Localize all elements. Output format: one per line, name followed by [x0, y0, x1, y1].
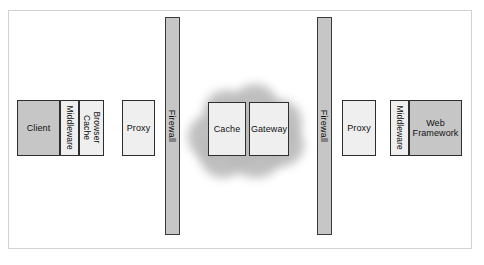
node-server-middleware-label: Middleware — [395, 105, 404, 151]
node-browser-cache[interactable]: Browser Cache — [79, 100, 104, 156]
node-browser-cache-label: Browser Cache — [82, 111, 101, 145]
node-server-proxy[interactable]: Proxy — [342, 100, 376, 156]
node-gateway[interactable]: Gateway — [249, 102, 289, 156]
node-client-proxy-label: Proxy — [126, 123, 152, 133]
node-firewall-right-label: Firewall — [320, 110, 330, 143]
node-cache-label: Cache — [213, 124, 242, 134]
node-firewall-left-label: Firewall — [168, 110, 178, 143]
node-client-middleware[interactable]: Middleware — [60, 100, 79, 156]
node-gateway-label: Gateway — [250, 124, 288, 134]
node-firewall-left[interactable]: Firewall — [165, 17, 180, 235]
node-client[interactable]: Client — [17, 100, 60, 156]
node-firewall-right[interactable]: Firewall — [317, 17, 332, 235]
diagram-canvas: Client Middleware Browser Cache Proxy Fi… — [0, 0, 484, 265]
node-client-proxy[interactable]: Proxy — [122, 100, 155, 156]
node-server-middleware[interactable]: Middleware — [390, 100, 409, 156]
node-web-framework-label: Web Framework — [412, 118, 460, 138]
node-server-proxy-label: Proxy — [346, 123, 372, 133]
node-web-framework[interactable]: Web Framework — [409, 100, 462, 156]
node-client-label: Client — [26, 123, 52, 133]
node-cache[interactable]: Cache — [208, 102, 246, 156]
node-client-middleware-label: Middleware — [65, 105, 74, 151]
